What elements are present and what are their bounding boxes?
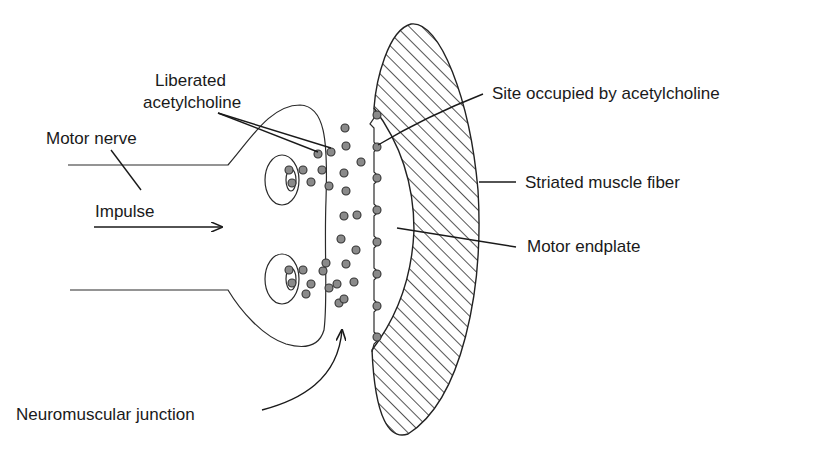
acetylcholine-molecule [373, 174, 381, 182]
label-neuromuscular-junction: Neuromuscular junction [16, 405, 195, 424]
acetylcholine-molecule [285, 166, 293, 174]
acetylcholine-molecule [373, 111, 381, 119]
acetylcholine-molecule [340, 169, 348, 177]
acetylcholine-molecule [373, 206, 381, 214]
acetylcholine-molecule [285, 266, 293, 274]
acetylcholine-molecule [337, 235, 345, 243]
acetylcholine-molecule [327, 148, 335, 156]
neuromuscular-junction-arrow [262, 330, 342, 410]
acetylcholine-molecule [341, 124, 349, 132]
acetylcholine-molecule [373, 270, 381, 278]
leader-liberated-ach-2 [218, 113, 331, 148]
acetylcholine-molecule [340, 212, 348, 220]
acetylcholine-molecule [373, 302, 381, 310]
label-motor-nerve: Motor nerve [46, 129, 137, 148]
acetylcholine-molecule [353, 211, 361, 219]
neuromuscular-junction-diagram: Liberated acetylcholine Motor nerve Impu… [0, 0, 824, 464]
label-liberated-line2: acetylcholine [143, 93, 241, 112]
acetylcholine-molecule [288, 179, 296, 187]
acetylcholine-molecule [307, 178, 315, 186]
acetylcholine-molecule [357, 158, 365, 166]
acetylcholine-molecule [325, 182, 333, 190]
label-motor-endplate: Motor endplate [527, 237, 640, 256]
acetylcholine-molecule [288, 279, 296, 287]
label-site-occupied: Site occupied by acetylcholine [492, 84, 720, 103]
label-liberated-line1: Liberated [155, 71, 226, 90]
acetylcholine-molecule [373, 238, 381, 246]
acetylcholine-molecule [299, 166, 307, 174]
acetylcholine-molecule [350, 278, 358, 286]
label-striated-muscle-fiber: Striated muscle fiber [525, 173, 680, 192]
acetylcholine-molecule [342, 142, 350, 150]
acetylcholine-molecule [342, 260, 350, 268]
acetylcholine-molecule [319, 267, 327, 275]
acetylcholine-molecule [302, 290, 310, 298]
acetylcholine-molecule [333, 280, 341, 288]
acetylcholine-molecule [373, 333, 381, 341]
acetylcholine-molecule [318, 166, 326, 174]
acetylcholine-molecules [285, 111, 381, 341]
acetylcholine-molecule [342, 187, 350, 195]
acetylcholine-molecule [322, 259, 330, 267]
acetylcholine-molecule [299, 266, 307, 274]
acetylcholine-molecule [352, 246, 360, 254]
leader-motor-nerve [111, 150, 141, 190]
striated-muscle-fiber-shape [372, 24, 479, 435]
label-impulse: Impulse [95, 202, 155, 221]
acetylcholine-molecule [340, 295, 348, 303]
acetylcholine-molecule [307, 280, 315, 288]
acetylcholine-molecule [325, 284, 333, 292]
